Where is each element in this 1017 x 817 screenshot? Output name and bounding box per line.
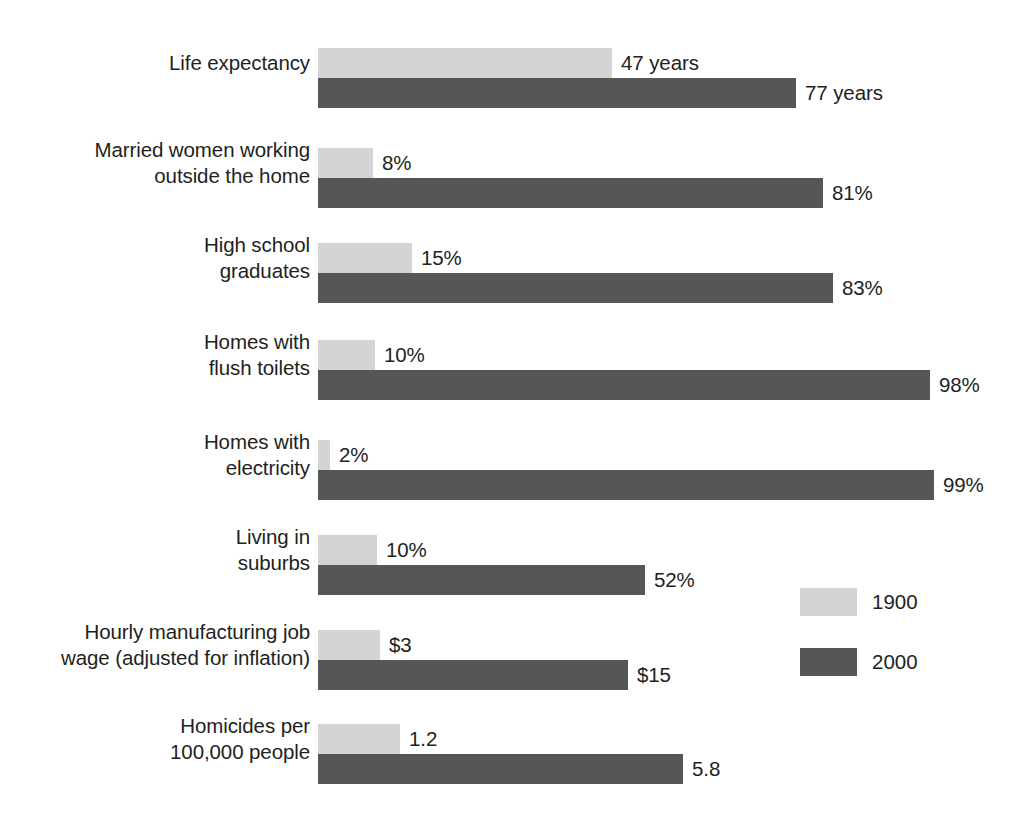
bar-2000 [318, 273, 833, 303]
legend-swatch-2000 [800, 648, 857, 676]
bar-2000 [318, 470, 934, 500]
bar-value-label: $15 [637, 660, 671, 690]
bar-1900 [318, 440, 330, 470]
bar-2000 [318, 754, 683, 784]
bar-value-label: 5.8 [692, 754, 720, 784]
bar-2000 [318, 78, 796, 108]
bar-value-label: 83% [842, 273, 883, 303]
row-label: Hourly manufacturing job wage (adjusted … [0, 619, 310, 671]
bar-chart: Life expectancy47 years77 yearsMarried w… [0, 0, 1017, 817]
bar-1900 [318, 630, 380, 660]
bar-value-label: 98% [939, 370, 980, 400]
bar-value-label: 47 years [621, 48, 699, 78]
legend-label-2000: 2000 [872, 648, 918, 676]
bar-2000 [318, 370, 930, 400]
legend-swatch-1900 [800, 588, 857, 616]
bar-value-label: 2% [339, 440, 368, 470]
row-label: Homes with flush toilets [0, 329, 310, 381]
bar-value-label: 8% [382, 148, 411, 178]
bar-1900 [318, 48, 612, 78]
row-label: Married women working outside the home [0, 137, 310, 189]
bar-value-label: $3 [389, 630, 412, 660]
bar-1900 [318, 724, 400, 754]
row-label: Life expectancy [0, 50, 310, 76]
row-label: Living in suburbs [0, 524, 310, 576]
bar-value-label: 77 years [805, 78, 883, 108]
bar-1900 [318, 340, 375, 370]
bar-value-label: 10% [386, 535, 427, 565]
bar-value-label: 1.2 [409, 724, 437, 754]
bar-value-label: 15% [421, 243, 462, 273]
bar-1900 [318, 148, 373, 178]
row-label: Homes with electricity [0, 429, 310, 481]
bar-1900 [318, 535, 377, 565]
row-label: High school graduates [0, 232, 310, 284]
bar-value-label: 10% [384, 340, 425, 370]
bar-2000 [318, 565, 645, 595]
row-label: Homicides per 100,000 people [0, 713, 310, 765]
bar-2000 [318, 660, 628, 690]
bar-value-label: 99% [943, 470, 984, 500]
bar-2000 [318, 178, 823, 208]
bar-value-label: 52% [654, 565, 695, 595]
bar-1900 [318, 243, 412, 273]
bar-value-label: 81% [832, 178, 873, 208]
legend-label-1900: 1900 [872, 588, 918, 616]
